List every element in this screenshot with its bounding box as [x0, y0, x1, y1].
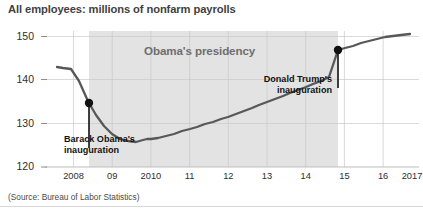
x-tick-label-11: 11: [185, 171, 195, 181]
obama-presidency-label: Obama's presidency: [144, 44, 255, 57]
line-chart-plot: [0, 0, 423, 213]
x-tick-label-2010: 2010: [141, 171, 162, 181]
x-tick-label-16: 16: [378, 171, 388, 181]
x-tick-label-13: 13: [262, 171, 272, 181]
y-axis-ticks: [41, 37, 47, 168]
y-tick-label-140: 140: [8, 73, 34, 85]
x-tick-label-09: 09: [107, 171, 117, 181]
annotation-line-2: inauguration: [64, 145, 135, 156]
y-tick-label-120: 120: [8, 160, 34, 172]
donald-trump-inauguration-annotation: Donald Trump's inauguration: [254, 74, 332, 96]
annotation-line-2: inauguration: [254, 85, 332, 96]
x-tick-label-15: 15: [339, 171, 349, 181]
y-tick-label-150: 150: [8, 30, 34, 42]
bottom-divider: [0, 206, 423, 207]
x-tick-label-2017: 2017: [402, 171, 423, 181]
y-tick-label-130: 130: [8, 117, 34, 129]
annotation-line-1: Barack Obama's: [64, 134, 135, 145]
chart-figure: All employees: millions of nonfarm payro…: [0, 0, 423, 213]
source-note: (Source: Bureau of Labor Statistics): [8, 192, 139, 202]
x-tick-label-14: 14: [301, 171, 311, 181]
x-tick-label-12: 12: [223, 171, 233, 181]
annotation-line-1: Donald Trump's: [254, 74, 332, 85]
x-tick-label-2008: 2008: [63, 171, 84, 181]
barack-obama-inauguration-annotation: Barack Obama's inauguration: [64, 134, 135, 156]
